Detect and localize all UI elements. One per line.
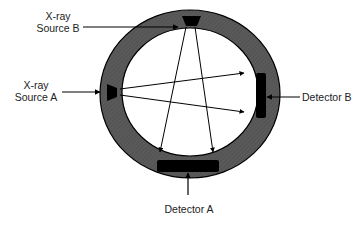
label-source-b-line2: Source B <box>34 22 82 34</box>
label-source-a: X-ray Source A <box>12 79 60 103</box>
detector-b <box>256 73 266 118</box>
label-source-b-line1: X-ray <box>34 10 82 22</box>
label-source-a-line2: Source A <box>12 91 60 103</box>
label-source-a-line1: X-ray <box>12 79 60 91</box>
label-detector-a: Detector A <box>164 203 214 215</box>
label-detector-b: Detector B <box>302 91 352 103</box>
label-source-b: X-ray Source B <box>34 10 82 34</box>
detector-a <box>157 160 219 172</box>
gantry-bore <box>122 28 258 156</box>
